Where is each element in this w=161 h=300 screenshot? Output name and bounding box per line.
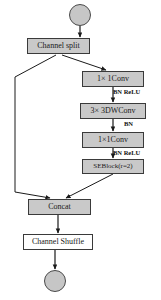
node-dwconv-3x3[interactable]: 3× 3DWConv (80, 103, 146, 119)
edge-label-bn-relu-2: BN ReLU (113, 150, 140, 157)
output-node-circle (44, 270, 66, 292)
edge-label-bn-relu-1: BN ReLU (113, 89, 140, 96)
node-concat-label: Concat (48, 203, 71, 211)
figure-canvas: Channel split 1× 1Conv 3× 3DWConv 1×1Con… (0, 0, 161, 300)
node-seblock-label: SEBlock(r=2) (93, 163, 132, 170)
node-conv-1x1-first[interactable]: 1× 1Conv (82, 71, 144, 87)
edge-seblock-to-concat (66, 174, 113, 198)
node-channel-split-label: Channel split (37, 42, 79, 50)
node-seblock[interactable]: SEBlock(r=2) (82, 159, 144, 174)
edge-channel-split-to-conv1 (62, 55, 106, 70)
edge-label-bn: BN (124, 121, 133, 128)
node-dwconv-3x3-label: 3× 3DWConv (90, 107, 135, 115)
edge-channel-split-to-concat-skip (15, 55, 56, 198)
node-channel-shuffle[interactable]: Channel Shuffle (23, 234, 93, 250)
node-channel-shuffle-label: Channel Shuffle (32, 238, 84, 246)
node-conv-1x1-first-label: 1× 1Conv (97, 75, 129, 83)
node-concat[interactable]: Concat (28, 199, 91, 215)
node-conv-1x1-second-label: 1×1Conv (98, 136, 128, 144)
input-node-circle (69, 4, 91, 26)
node-channel-split[interactable]: Channel split (27, 38, 90, 54)
node-conv-1x1-second[interactable]: 1×1Conv (82, 132, 144, 148)
